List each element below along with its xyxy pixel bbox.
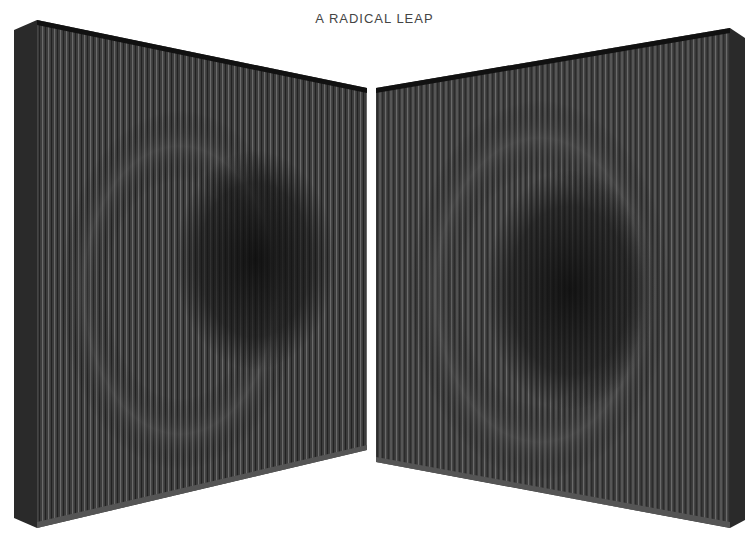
- right-panel: [376, 28, 745, 528]
- artwork-photo: [0, 0, 749, 540]
- left-panel: [14, 20, 367, 528]
- left-panel-side: [14, 20, 37, 528]
- right-panel-side: [730, 28, 745, 528]
